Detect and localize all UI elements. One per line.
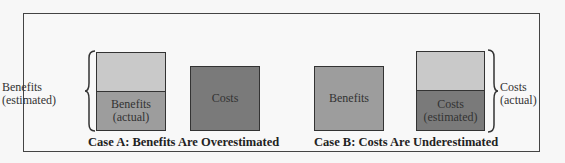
costs-label: Costs: [191, 67, 259, 130]
benefits-label: Benefits: [315, 67, 383, 130]
case-b-costs-actual-label: Costs (actual): [500, 81, 537, 107]
case-b-costs-box: Costs (estimated): [416, 51, 485, 131]
benefits-overestimate-segment: [97, 53, 165, 92]
case-a-benefits-estimated-label: Benefits (estimated): [2, 81, 56, 107]
case-b-caption: Case B: Costs Are Underestimated: [314, 135, 498, 150]
right-brace-icon: [487, 49, 499, 133]
case-a-benefits-box: Benefits (actual): [96, 52, 166, 131]
segment-label: (actual): [113, 111, 150, 124]
case-b-benefits-box: Benefits: [314, 66, 384, 131]
costs-estimated-segment: Costs (estimated): [417, 91, 484, 130]
segment-label: Costs: [437, 98, 464, 111]
case-a-costs-box: Costs: [190, 66, 260, 131]
label-line: (estimated): [2, 94, 56, 107]
benefits-actual-segment: Benefits (actual): [97, 92, 165, 130]
left-brace-icon: [84, 50, 96, 132]
segment-label: (estimated): [424, 111, 478, 124]
case-a-caption: Case A: Benefits Are Overestimated: [88, 135, 279, 150]
label-line: (actual): [500, 94, 537, 107]
costs-underestimate-segment: [417, 52, 484, 91]
